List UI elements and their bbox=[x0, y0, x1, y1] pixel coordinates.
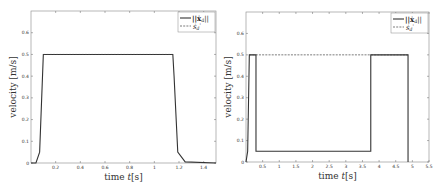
x-axis-label: time t[s] bbox=[318, 171, 357, 181]
y-tick-label: 0.6 bbox=[237, 31, 244, 36]
x-tick-label: 0.5 bbox=[259, 164, 266, 169]
plot-1: 0.20.40.60.811.21.400.10.20.30.40.50.6ti… bbox=[8, 11, 216, 182]
x-tick-label: 5 bbox=[411, 164, 414, 169]
y-axis-label: velocity [m/s] bbox=[8, 56, 18, 118]
axes-box bbox=[31, 11, 216, 163]
x-tick-label: 1 bbox=[278, 164, 281, 169]
plot-2: 0.511.522.533.544.555.500.10.20.30.40.50… bbox=[223, 12, 433, 181]
x-tick-label: 3.5 bbox=[359, 164, 366, 169]
y-tick-label: 0.2 bbox=[237, 117, 244, 122]
x-tick-label: 1.2 bbox=[175, 165, 182, 170]
y-tick-label: 0.6 bbox=[22, 30, 29, 35]
x-axis-label: time t[s] bbox=[104, 172, 143, 182]
y-tick-label: 0.1 bbox=[22, 139, 29, 144]
x-tick-label: 1 bbox=[153, 165, 156, 170]
y-tick-label: 0.3 bbox=[22, 95, 29, 100]
legend: ||ẋd||ṡd' bbox=[178, 12, 215, 32]
y-axis-label: velocity [m/s] bbox=[223, 56, 233, 118]
x-tick-label: 1.4 bbox=[200, 165, 207, 170]
x-tick-label: 3 bbox=[344, 164, 347, 169]
x-tick-label: 4.5 bbox=[392, 164, 399, 169]
x-tick-label: 0.2 bbox=[52, 165, 59, 170]
axes-box bbox=[246, 12, 429, 162]
legend: ||ẋd||ṡd' bbox=[391, 13, 428, 33]
x-tick-label: 2 bbox=[311, 164, 314, 169]
x-tick-label: 4 bbox=[378, 164, 381, 169]
y-tick-label: 0.5 bbox=[22, 52, 29, 57]
series-solid bbox=[31, 54, 216, 163]
y-tick-label: 0 bbox=[26, 161, 29, 166]
x-tick-label: 1.5 bbox=[292, 164, 299, 169]
x-tick-label: 0.8 bbox=[126, 165, 133, 170]
chart-figure: 0.20.40.60.811.21.400.10.20.30.40.50.6ti… bbox=[0, 0, 445, 187]
y-tick-label: 0.1 bbox=[237, 138, 244, 143]
y-tick-label: 0.4 bbox=[237, 74, 244, 79]
x-tick-label: 5.5 bbox=[425, 164, 432, 169]
y-tick-label: 0.2 bbox=[22, 117, 29, 122]
series-solid bbox=[246, 55, 408, 162]
x-tick-label: 2.5 bbox=[326, 164, 333, 169]
y-tick-label: 0.5 bbox=[237, 52, 244, 57]
x-tick-label: 0.4 bbox=[77, 165, 84, 170]
y-tick-label: 0 bbox=[241, 160, 244, 165]
x-tick-label: 0.6 bbox=[101, 165, 108, 170]
y-tick-label: 0.3 bbox=[237, 95, 244, 100]
y-tick-label: 0.4 bbox=[22, 74, 29, 79]
